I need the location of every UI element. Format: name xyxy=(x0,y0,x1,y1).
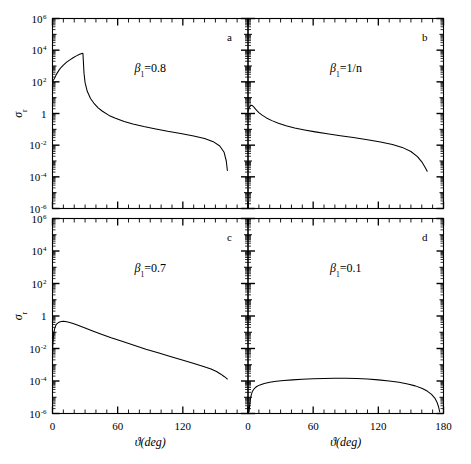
sigma-subscript: r xyxy=(20,109,29,112)
svg-text:σr: σr xyxy=(11,311,29,320)
curve-c xyxy=(53,321,228,379)
panel-d: dβ1=0.1 xyxy=(248,219,444,414)
figure-container: aβ1=0.8bβ1=1/ncβ1=0.7dβ1=0.1106104102110… xyxy=(0,0,471,464)
panel-b: bβ1=1/n xyxy=(248,19,444,209)
y-tick-labels: 106104102110-210-410-6106104102110-210-4… xyxy=(29,13,47,420)
y-tick-label: 102 xyxy=(32,278,48,290)
beta-symbol: β xyxy=(134,261,141,275)
panel-c: cβ1=0.7 xyxy=(53,219,249,414)
y-tick-label: 1 xyxy=(41,108,47,120)
y-axis-title: σr xyxy=(11,311,29,320)
y-tick-label: 106 xyxy=(32,213,48,225)
y-tick-label: 104 xyxy=(32,44,48,56)
y-tick-label: 10-2 xyxy=(29,139,47,151)
x-ticks xyxy=(53,19,249,209)
y-tick-label: 106 xyxy=(32,13,48,25)
annotation-c: β1=0.7 xyxy=(134,261,167,279)
y-tick-label: 10-2 xyxy=(29,343,47,355)
beta-value: =1/n xyxy=(340,61,362,75)
x-tick-label: 120 xyxy=(175,420,192,432)
y-tick-label: 10-4 xyxy=(29,171,47,183)
beta-value: =0.7 xyxy=(144,261,166,275)
beta-symbol: β xyxy=(329,261,336,275)
y-tick-label: 10-4 xyxy=(29,375,47,387)
x-tick-label: 120 xyxy=(370,420,387,432)
panel-frame xyxy=(53,219,249,414)
y-ticks xyxy=(53,19,249,209)
panel-frame xyxy=(248,219,444,414)
x-ticks xyxy=(53,219,249,414)
x-ticks xyxy=(248,19,444,209)
annotation-b: β1=1/n xyxy=(329,61,362,79)
curve-d xyxy=(249,378,440,412)
beta-symbol: β xyxy=(329,61,336,75)
x-tick-label: 180 xyxy=(435,420,452,432)
y-axis-title: σr xyxy=(11,109,29,118)
y-ticks xyxy=(248,19,444,209)
panel-letter-b: b xyxy=(422,31,428,43)
panel-frame xyxy=(53,19,249,209)
x-axis-title: ϑ(deg) xyxy=(330,435,361,449)
curve-b xyxy=(248,105,427,171)
y-ticks xyxy=(248,219,444,414)
annotation-d: β1=0.1 xyxy=(329,261,362,279)
panel-letter-c: c xyxy=(227,231,232,243)
panel-letter-a: a xyxy=(227,31,232,43)
beta-value: =0.8 xyxy=(144,61,166,75)
x-ticks xyxy=(248,219,444,414)
x-tick-label: 0 xyxy=(245,420,251,432)
beta-value: =0.1 xyxy=(340,261,362,275)
x-tick-label: 0 xyxy=(50,420,56,432)
beta-symbol: β xyxy=(134,61,141,75)
x-tick-label: 60 xyxy=(308,420,320,432)
panel-a: aβ1=0.8 xyxy=(53,19,249,209)
annotation-a: β1=0.8 xyxy=(134,61,167,79)
panel-frame xyxy=(248,19,444,209)
y-tick-label: 104 xyxy=(32,245,48,257)
sigma-subscript: r xyxy=(20,311,29,314)
y-tick-label: 10-6 xyxy=(29,408,47,420)
panel-letter-d: d xyxy=(422,231,428,243)
x-tick-label: 60 xyxy=(112,420,124,432)
svg-text:σr: σr xyxy=(11,109,29,118)
four-panel-log-plot: aβ1=0.8bβ1=1/ncβ1=0.7dβ1=0.1106104102110… xyxy=(0,0,471,464)
y-tick-label: 1 xyxy=(41,310,47,322)
y-ticks xyxy=(53,219,249,414)
x-axis-title: ϑ(deg) xyxy=(135,435,166,449)
y-tick-label: 102 xyxy=(32,76,48,88)
x-tick-labels: 060120ϑ(deg)060120180ϑ(deg) xyxy=(50,420,453,449)
